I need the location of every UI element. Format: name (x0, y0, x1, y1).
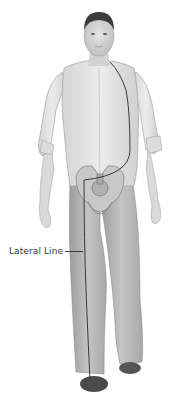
anatomy-figure (0, 0, 178, 401)
torso (62, 60, 139, 186)
left-shoe (80, 376, 108, 392)
head (84, 12, 114, 56)
lateral-line-label: Lateral Line (9, 246, 63, 256)
lateral-line-leader (65, 251, 83, 252)
right-shoe (119, 362, 141, 374)
